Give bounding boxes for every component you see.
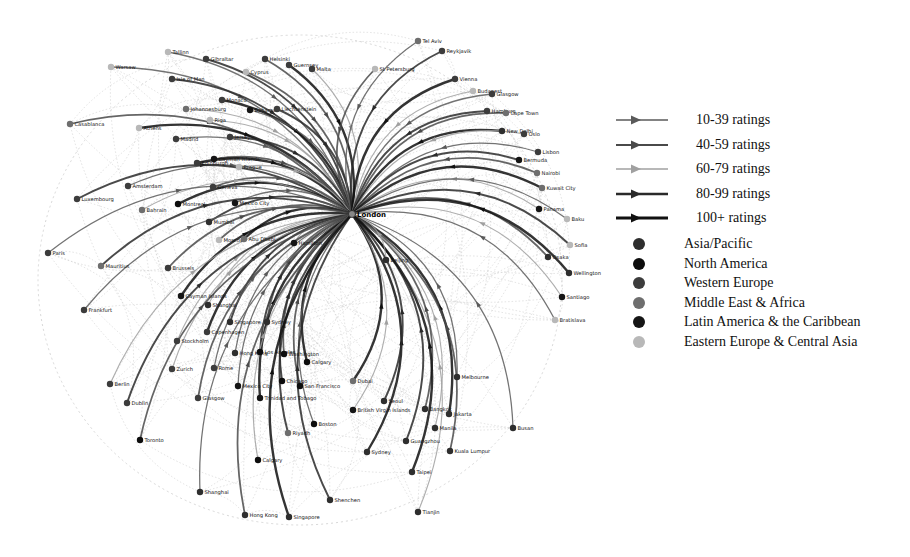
city-node[interactable]: Cape Town [503, 110, 539, 117]
city-node[interactable]: Mauritius [98, 263, 130, 269]
city-node[interactable]: Trinidad and Tobago [257, 395, 317, 402]
node-dot-icon [257, 349, 263, 355]
city-node[interactable]: Montreal [175, 201, 206, 207]
legend-region-label: Eastern Europe & Central Asia [684, 334, 857, 350]
node-dot-icon [139, 207, 145, 213]
city-node[interactable]: Shanghai [197, 489, 229, 496]
city-node[interactable]: Osaka [545, 254, 569, 260]
city-node[interactable]: Reykjavik [439, 48, 471, 55]
legend-region-label: North America [684, 256, 768, 272]
arrow-icon [187, 224, 194, 230]
city-node[interactable]: Stockholm [174, 338, 209, 344]
city-node[interactable]: Boston [311, 421, 337, 427]
city-label: Cape Town [511, 110, 539, 117]
city-node[interactable]: Shenchen [327, 497, 360, 503]
city-node[interactable]: Zurich [169, 366, 193, 372]
city-node[interactable]: Taipei [409, 469, 432, 476]
legend-region-label: Latin America & the Caribbean [684, 314, 861, 330]
city-node[interactable]: Beijing [383, 257, 408, 264]
node-dot-icon [81, 307, 87, 313]
city-node[interactable]: Prague [236, 164, 262, 171]
city-label: Wellington [574, 270, 601, 277]
city-node[interactable]: Singapore [286, 514, 320, 521]
node-dot-icon [178, 293, 184, 299]
city-node[interactable]: Cyprus [243, 69, 269, 76]
node-dot-icon [536, 206, 542, 212]
city-node[interactable]: Geneva [210, 184, 238, 190]
city-node[interactable]: Amsterdam [125, 183, 163, 189]
city-node[interactable]: Chicago [279, 378, 308, 385]
city-node[interactable]: Glasgow [195, 395, 226, 402]
city-node[interactable]: Riga [207, 117, 226, 124]
city-node[interactable]: Moscow [216, 237, 245, 243]
city-node[interactable]: Melbourne [454, 374, 489, 380]
city-node[interactable]: British Virgin Islands [350, 407, 411, 414]
city-node[interactable]: Sydney [264, 319, 291, 326]
city-node[interactable]: Bratislava [552, 317, 586, 323]
city-node[interactable]: Glasgow [489, 91, 520, 98]
city-node[interactable]: Madrid [173, 136, 199, 142]
city-node[interactable]: Singapore [227, 319, 261, 326]
city-node[interactable]: Dubai [350, 378, 373, 384]
city-node[interactable]: Abu Dhabi [241, 236, 276, 242]
arrow-line-icon [615, 211, 669, 225]
city-node[interactable]: Tianjin [415, 509, 440, 516]
city-label: Calgary [263, 457, 283, 464]
city-node[interactable]: Vienna [452, 76, 478, 82]
city-node[interactable]: Oslo [521, 131, 540, 137]
city-label: Cayman Islands [186, 293, 227, 300]
city-node[interactable]: Manila [432, 425, 457, 431]
city-node[interactable]: Cayman Islands [178, 293, 227, 300]
city-label: Sofia [575, 242, 588, 248]
city-label: Riga [215, 117, 227, 124]
city-node[interactable]: Guangzhou [403, 438, 440, 445]
node-dot-icon [415, 38, 421, 44]
city-node[interactable]: Brussels [165, 265, 195, 271]
city-node[interactable]: St Petersburg [372, 66, 415, 73]
city-node[interactable]: Jakarta [446, 411, 472, 418]
city-label: Manila [440, 425, 457, 431]
node-dot-icon [204, 329, 210, 335]
city-node[interactable]: Calgary [255, 457, 283, 464]
city-node[interactable]: Berlin [107, 381, 130, 387]
city-node[interactable]: Shanghai [205, 302, 237, 309]
city-node[interactable]: Kuala Lumpur [447, 448, 491, 455]
city-node[interactable]: Santiago [559, 294, 590, 301]
city-node[interactable]: Isle of Man [169, 76, 205, 82]
city-node[interactable]: Nairobi [534, 170, 560, 176]
city-node[interactable]: Monaco [219, 97, 247, 103]
city-node[interactable]: Jersey [227, 134, 251, 141]
city-node[interactable]: Bermuda [516, 157, 547, 163]
city-node[interactable]: Baku [564, 216, 585, 222]
city-node[interactable]: Toronto [137, 437, 164, 443]
city-node[interactable]: Hamilton [291, 240, 322, 246]
city-node[interactable]: Seoul [381, 398, 403, 404]
city-node[interactable]: Lisbon [535, 149, 559, 155]
city-node[interactable]: Panama [536, 206, 564, 212]
city-node[interactable]: Rome [211, 365, 233, 371]
city-node[interactable]: Sydney [364, 449, 391, 456]
edge [352, 214, 457, 451]
city-node[interactable]: Busan [510, 425, 534, 431]
city-node[interactable]: Helsinki [262, 56, 290, 62]
city-node[interactable]: Sofia [567, 242, 588, 248]
city-node[interactable]: Wellington [566, 270, 601, 277]
city-node[interactable]: Hong Kong [242, 512, 278, 519]
city-node[interactable]: Riyadh [285, 430, 311, 437]
city-node[interactable]: Paris [45, 250, 65, 256]
city-node[interactable]: Tallinn [165, 49, 189, 55]
city-node[interactable]: Tel Aviv [415, 38, 442, 44]
city-node[interactable]: Dublin [124, 400, 148, 406]
city-node[interactable]: Athens [136, 125, 162, 131]
node-dot-icon [98, 263, 104, 269]
city-node[interactable]: Mumbai [206, 219, 234, 225]
city-node[interactable]: Malta [309, 66, 331, 72]
city-node[interactable]: Calgary [304, 359, 332, 366]
city-node[interactable]: Gibraltar [203, 56, 234, 62]
legend-region-item: Middle East & Africa [615, 293, 861, 313]
city-node[interactable]: Bahrain [139, 207, 167, 213]
legend-rating-label: 100+ ratings [696, 210, 767, 226]
city-label: Taipei [416, 469, 432, 476]
city-node[interactable]: Frankfurt [81, 307, 112, 313]
city-node[interactable]: Warsaw [108, 64, 137, 70]
